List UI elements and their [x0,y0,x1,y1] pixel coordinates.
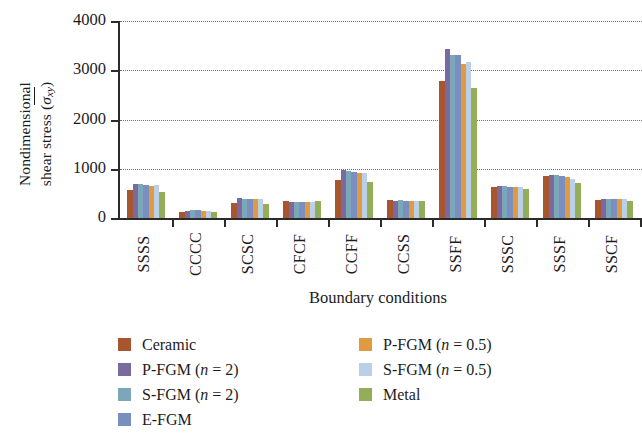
x-axis-tick-label-cell: CFCF [274,228,326,284]
y-axis-tick-label: 2000 [44,111,106,127]
y-axis-tick [111,120,120,122]
x-axis-tick-label-cell: CCSS [378,228,430,284]
y-axis-tick [111,218,120,220]
x-axis-tick-label-cell: SSFF [430,228,482,284]
bar-group [328,21,380,218]
bar-group [120,21,172,218]
x-axis-tick-label: SSFF [447,236,465,273]
bar[interactable] [471,88,476,218]
legend-item[interactable]: Metal [359,382,588,407]
y-axis-tick-label: 4000 [44,12,106,28]
bar[interactable] [159,192,164,218]
bar-group [536,21,588,218]
x-axis-tick-labels: SSSSCCCCSCSCCFCFCCFFCCSSSSFFSSSCSSSFSSCF [118,228,638,284]
bar-group [484,21,536,218]
y-axis-tick-label: 1000 [44,160,106,176]
bar[interactable] [315,201,320,218]
x-axis-tick-label: CCFF [343,234,361,274]
sigma-glyph: σ [37,97,54,105]
x-axis-tick-label: CCSS [395,234,413,274]
y-axis-title-line1: Nondimensional [16,82,33,186]
x-axis-title: Boundary conditions [118,288,638,308]
y-axis-tick [111,169,120,171]
legend-swatch [359,363,372,376]
bar-group [380,21,432,218]
legend-swatch [118,413,131,426]
bar[interactable] [211,212,216,218]
x-axis-tick [224,218,226,227]
bar[interactable] [367,182,372,218]
legend-item[interactable]: P-FGM (n = 2) [118,357,347,382]
bar[interactable] [523,189,528,218]
x-axis-tick-label-cell: SSSS [118,228,170,284]
bar-group [172,21,224,218]
x-axis-tick [432,218,434,227]
chart-legend: CeramicP-FGM (n = 2)S-FGM (n = 2)E-FGMP-… [118,332,588,432]
legend-item[interactable]: P-FGM (n = 0.5) [359,332,588,357]
legend-swatch [359,338,372,351]
x-axis-tick-label-cell: CCCC [170,228,222,284]
x-axis-tick [172,218,174,227]
sigma-bar-symbol: σxy [35,87,59,105]
x-axis-tick [380,218,382,227]
legend-swatch [359,388,372,401]
bar-group [224,21,276,218]
bar[interactable] [627,201,632,218]
legend-item[interactable]: S-FGM (n = 2) [118,382,347,407]
x-axis-tick-label: SCSC [239,234,257,274]
y-axis-tick [111,21,120,23]
bar[interactable] [575,183,580,218]
legend-label: S-FGM (n = 2) [142,387,239,403]
legend-label: P-FGM (n = 2) [142,362,239,378]
legend-swatch [118,388,131,401]
legend-item[interactable]: E-FGM [118,407,347,432]
x-axis-tick-label-cell: SCSC [222,228,274,284]
legend-label: Metal [383,387,420,403]
x-axis-tick [484,218,486,227]
bar[interactable] [263,204,268,218]
legend-label: S-FGM (n = 0.5) [383,362,492,378]
y-axis-tick-label: 0 [44,209,106,225]
x-axis-tick [588,218,590,227]
y-axis-tick [111,70,120,72]
x-axis-tick [276,218,278,227]
x-axis-tick [536,218,538,227]
legend-label: P-FGM (n = 0.5) [383,337,492,353]
plot-area [118,21,640,220]
legend-label: Ceramic [142,337,196,353]
x-axis-tick-label-cell: CCFF [326,228,378,284]
x-axis-tick-label: SSSC [499,235,517,274]
bar-groups [120,21,640,218]
x-axis-tick-label: CFCF [291,234,309,274]
x-axis-tick-label-cell: SSCF [586,228,638,284]
x-axis-tick-label: SSSF [551,236,569,273]
bar-group [276,21,328,218]
legend-label: E-FGM [142,412,192,428]
y-axis-tick-label: 3000 [44,61,106,77]
legend-swatch [118,338,131,351]
bar[interactable] [419,201,424,218]
x-axis-tick-label-cell: SSSC [482,228,534,284]
x-axis-tick-label-cell: SSSF [534,228,586,284]
legend-item[interactable]: Ceramic [118,332,347,357]
bar-group [588,21,640,218]
x-axis-tick-label: SSSS [135,236,153,273]
bar-group [432,21,484,218]
legend-item[interactable]: S-FGM (n = 0.5) [359,357,588,382]
x-axis-tick [328,218,330,227]
sigma-subscript: xy [43,87,55,97]
x-axis-tick-label: CCCC [187,232,205,276]
x-axis-tick-label: SSCF [603,235,621,274]
legend-swatch [118,363,131,376]
